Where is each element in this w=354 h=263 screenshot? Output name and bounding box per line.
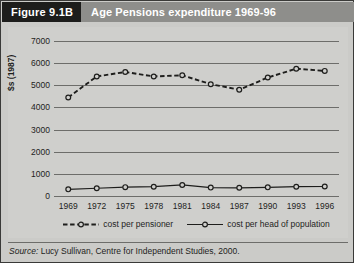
data-point-marker: [151, 74, 156, 79]
data-point-marker: [151, 184, 156, 189]
data-point-marker: [123, 70, 128, 75]
figure-title: Age Pensions expenditure 1969-96: [81, 2, 276, 22]
y-axis-tick-label: 5000: [10, 80, 50, 90]
data-point-marker: [123, 185, 128, 190]
y-axis-tick-label: 4000: [10, 102, 50, 112]
data-point-marker: [180, 73, 185, 78]
chart-panel: $s (1987) 70006000500040003000200010000 …: [8, 27, 348, 238]
data-point-marker: [265, 185, 270, 190]
data-point-marker: [208, 82, 213, 87]
source-label: Source:: [9, 246, 38, 256]
data-point-marker: [208, 185, 213, 190]
x-axis-tick-label: 1996: [308, 201, 342, 211]
y-axis-tick-label: 3000: [10, 125, 50, 135]
y-axis-tick-label: 7000: [10, 36, 50, 46]
y-axis-tick-label: 0: [10, 191, 50, 201]
legend-label: cost per pensioner: [103, 219, 173, 229]
series-line: [68, 69, 325, 98]
source-text: Lucy Sullivan, Centre for Independent St…: [38, 246, 239, 256]
data-point-marker: [294, 184, 299, 189]
legend-item: cost per pensioner: [63, 219, 173, 229]
plot-area: 70006000500040003000200010000 1969197219…: [54, 41, 339, 196]
y-axis-tick-label: 2000: [10, 147, 50, 157]
series-line: [68, 185, 325, 189]
data-point-marker: [294, 66, 299, 71]
data-point-marker: [94, 186, 99, 191]
figure-number-badge: Figure 9.1B: [2, 2, 81, 22]
figure-container: Figure 9.1B Age Pensions expenditure 196…: [0, 0, 354, 263]
legend-swatch: [63, 220, 99, 229]
legend-swatch: [187, 220, 223, 229]
data-point-marker: [66, 187, 71, 192]
y-axis-tick-label: 1000: [10, 169, 50, 179]
data-point-marker: [94, 74, 99, 79]
legend-label: cost per head of population: [227, 219, 330, 229]
chart-legend: cost per pensionercost per head of popul…: [54, 217, 339, 231]
source-note: Source: Lucy Sullivan, Centre for Indepe…: [9, 246, 240, 256]
y-axis-tick-label: 6000: [10, 58, 50, 68]
data-point-marker: [265, 75, 270, 80]
gridline: [54, 196, 339, 197]
data-point-marker: [180, 183, 185, 188]
data-point-marker: [322, 184, 327, 189]
series-lines: [54, 41, 339, 196]
data-point-marker: [237, 87, 242, 92]
data-point-marker: [237, 185, 242, 190]
legend-item: cost per head of population: [187, 219, 330, 229]
data-point-marker: [322, 68, 327, 73]
data-point-marker: [66, 95, 71, 100]
figure-header: Figure 9.1B Age Pensions expenditure 196…: [2, 2, 354, 22]
source-divider: [8, 242, 348, 243]
